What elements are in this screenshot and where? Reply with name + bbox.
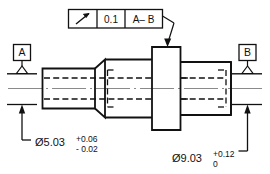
left-dim-nominal-value: 5.03 <box>44 136 65 148</box>
right-dim-nominal-value: 9.03 <box>181 152 202 164</box>
engineering-drawing-canvas: 0.1 A– B A B <box>0 0 270 174</box>
fcf-leader-line <box>163 16 175 47</box>
datum-a-label: A <box>18 46 25 58</box>
right-dim-lower-tolerance: 0 <box>213 159 218 169</box>
right-dim-upper-tolerance: +0.12 <box>213 149 235 159</box>
fcf-tolerance-value: 0.1 <box>104 14 118 25</box>
datum-b-label: B <box>244 46 251 58</box>
right-dim-arrowhead <box>244 105 250 114</box>
right-dim-value-group: Ø9.03 <box>172 152 202 164</box>
left-dimension-leader <box>7 105 37 141</box>
datum-feature-b[interactable]: B <box>232 45 262 74</box>
left-dim-arrowhead <box>19 105 25 114</box>
datum-feature-a[interactable]: A <box>7 45 37 74</box>
left-dim-value-group: Ø5.03 <box>35 136 65 148</box>
left-dim-upper-tolerance: +0.06 <box>76 134 98 144</box>
drawing-svg: 0.1 A– B A B <box>0 0 270 174</box>
left-dim-lower-tolerance: - 0.02 <box>76 144 98 154</box>
fcf-leader-arrowhead <box>164 39 171 48</box>
feature-control-frame[interactable]: 0.1 A– B <box>69 10 163 29</box>
datum-b-triangle <box>242 66 253 74</box>
right-dimension-text: Ø9.03 +0.12 0 <box>172 149 235 169</box>
right-dimension-leader <box>232 105 262 152</box>
datum-a-triangle <box>17 66 28 74</box>
left-dimension-text: Ø5.03 +0.06 - 0.02 <box>35 134 98 154</box>
fcf-datum-reference: A– B <box>133 14 155 25</box>
